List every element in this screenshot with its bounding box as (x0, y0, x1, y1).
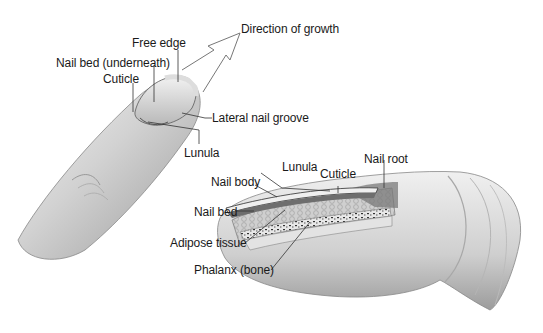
label-adipose-tissue: Adipose tissue (170, 236, 247, 250)
label-nail-root: Nail root (364, 152, 408, 166)
label-free-edge: Free edge (132, 36, 186, 50)
nail-anatomy-diagram: Direction of growth Free edge Nail bed (… (0, 0, 543, 333)
label-phalanx-bone: Phalanx (bone) (194, 263, 274, 277)
label-lateral-nail-groove: Lateral nail groove (212, 111, 309, 125)
finger-cross-section (218, 171, 521, 310)
label-lunula-section: Lunula (282, 160, 317, 174)
label-nail-bed: Nail bed (194, 205, 237, 219)
illustration (0, 0, 543, 333)
label-direction-of-growth: Direction of growth (241, 22, 339, 36)
label-lunula-top: Lunula (184, 146, 219, 160)
finger-top-view (18, 76, 200, 259)
label-cuticle-top: Cuticle (103, 72, 139, 86)
label-nail-bed-underneath: Nail bed (underneath) (56, 56, 170, 70)
label-nail-body: Nail body (211, 175, 260, 189)
label-cuticle-section: Cuticle (320, 167, 356, 181)
